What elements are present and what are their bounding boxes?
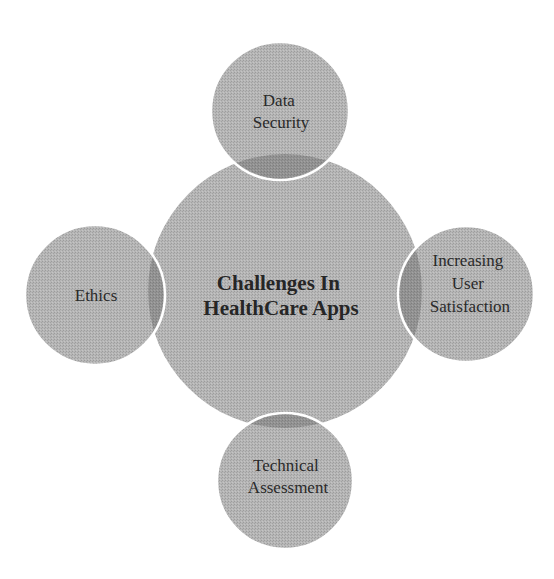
label-line: Security <box>253 113 310 132</box>
label-line: Assessment <box>248 478 329 497</box>
center-title: Challenges In HealthCare Apps <box>203 271 358 320</box>
label-line: Data <box>263 91 296 110</box>
label-line: User <box>452 274 484 293</box>
label-line: Technical <box>253 456 319 475</box>
center-title-line-1: Challenges In <box>217 271 340 295</box>
label-line: Increasing <box>432 251 503 270</box>
label-ethics: Ethics <box>75 286 118 305</box>
label-line: Satisfaction <box>430 297 511 316</box>
challenges-diagram: Challenges In HealthCare Apps Data Secur… <box>0 0 554 579</box>
satellite-top <box>211 42 349 180</box>
label-line: Ethics <box>75 286 118 305</box>
center-title-line-2: HealthCare Apps <box>203 296 358 320</box>
satellite-right <box>398 226 534 362</box>
